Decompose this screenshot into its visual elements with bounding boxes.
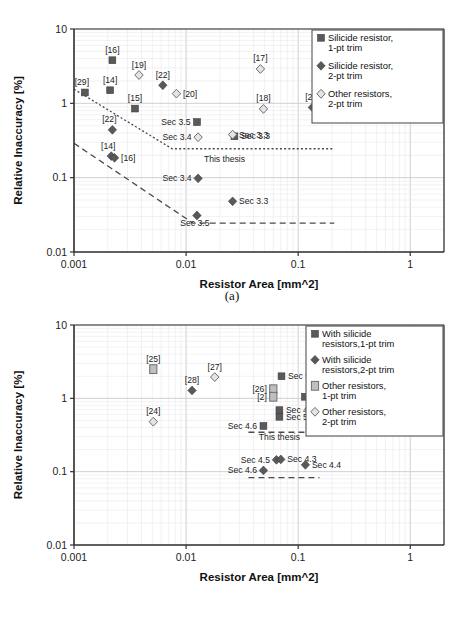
x-tick-label: 0.01	[176, 258, 197, 270]
legend-item-label: 2-pt trim	[328, 98, 363, 109]
data-point-label: Sec 3.3	[239, 196, 268, 206]
legend-item-label: 1-pt trim	[328, 42, 363, 53]
data-point-label: Sec 4.5	[241, 455, 270, 465]
data-point-label: [14]	[101, 141, 115, 151]
data-point-label: [28]	[185, 375, 199, 385]
chart-legend: With silicideresistors,1-pt trimWith sil…	[306, 326, 443, 436]
chart-legend: Silicide resistor,1-pt trimSilicide resi…	[312, 30, 443, 123]
figure-a: This thesis[29][14][16][15]Sec 3.5Sec 3.…	[0, 0, 464, 310]
data-point-label: Sec 3.5	[161, 117, 190, 127]
legend-item-label: resistors,2-pt trim	[322, 364, 395, 375]
data-point-label: Sec 3.3	[239, 130, 268, 140]
data-point-label: [19]	[132, 60, 146, 70]
data-point-marker	[107, 87, 114, 94]
legend-item-label: 2-pt trim	[328, 70, 363, 81]
annotation-this-thesis: This thesis	[259, 432, 300, 442]
data-point-marker	[109, 57, 116, 64]
x-tick-label: 0.01	[176, 551, 197, 563]
y-tick-label: 10	[55, 319, 67, 331]
annotation-this-thesis: This thesis	[204, 154, 245, 164]
y-tick-label: 1	[61, 97, 67, 109]
y-tick-label: 0.1	[52, 465, 67, 477]
data-point-label: Sec 3.5	[180, 218, 209, 228]
legend-marker-square-dark	[318, 34, 325, 41]
y-axis-title: Relative Inaccuracy [%]	[12, 371, 24, 500]
data-point-label: Sec 3.4	[162, 132, 191, 142]
x-tick-label: 0.001	[61, 551, 87, 563]
data-point-marker	[278, 373, 285, 380]
data-point-label: [14]	[103, 75, 117, 85]
figure-a-caption: (a)	[0, 288, 464, 304]
data-point-label: [27]	[208, 362, 222, 372]
data-point-label: [29]	[75, 77, 89, 87]
data-point-label: [16]	[105, 45, 119, 55]
y-tick-label: 0.01	[47, 246, 68, 258]
y-axis-title: Relative Inaccuracy [%]	[12, 76, 24, 205]
chart-a-svg: This thesis[29][14][16][15]Sec 3.5Sec 3.…	[0, 0, 464, 290]
data-point-marker	[81, 89, 88, 96]
chart-a-plot: This thesis[29][14][16][15]Sec 3.5Sec 3.…	[0, 0, 464, 310]
x-tick-label: 0.1	[291, 258, 306, 270]
data-point-label: Sec 4.6	[228, 465, 257, 475]
data-point-marker	[132, 105, 139, 112]
data-point-label: [15]	[128, 93, 142, 103]
data-point-marker	[276, 413, 283, 420]
y-tick-label: 0.01	[47, 539, 68, 551]
data-point-marker	[276, 407, 283, 414]
legend-item-label: 1-pt trim	[322, 390, 357, 401]
legend-marker-square-dark	[312, 330, 319, 337]
data-point-label: [22]	[102, 114, 116, 124]
data-point-marker	[260, 423, 267, 430]
data-point-label: [20]	[183, 89, 197, 99]
legend-marker-square-light	[311, 381, 318, 390]
data-point-label: [24]	[146, 406, 160, 416]
legend-item-label: resistors,1-pt trim	[322, 338, 395, 349]
x-axis-title: Resistor Area [mm^2]	[200, 571, 319, 583]
data-point-label: Sec 4.6	[228, 421, 257, 431]
data-point-marker	[150, 365, 157, 374]
figure-b: This thesisSec 5.2Sec 4.4Sec 4.3Sec 5.3S…	[0, 310, 464, 619]
x-tick-label: 1	[407, 551, 413, 563]
y-tick-label: 0.1	[52, 171, 67, 183]
chart-b-plot: This thesisSec 5.2Sec 4.4Sec 4.3Sec 5.3S…	[0, 310, 464, 619]
x-tick-label: 0.1	[291, 551, 306, 563]
data-point-marker	[270, 392, 277, 401]
y-tick-label: 1	[61, 392, 67, 404]
x-tick-label: 1	[407, 258, 413, 270]
x-tick-label: 0.001	[61, 258, 87, 270]
data-point-label: [22]	[156, 70, 170, 80]
data-point-label: Sec 3.4	[162, 173, 191, 183]
data-point-label: [25]	[146, 354, 160, 364]
y-tick-label: 10	[55, 23, 67, 35]
data-point-label: [18]	[256, 93, 270, 103]
chart-b-svg: This thesisSec 5.2Sec 4.4Sec 4.3Sec 5.3S…	[0, 310, 464, 595]
data-point-label: [17]	[253, 53, 267, 63]
legend-item-label: 2-pt trim	[322, 416, 357, 427]
data-point-label: [16]	[121, 153, 135, 163]
data-point-label: Sec 4.4	[312, 460, 341, 470]
data-point-label: [2]	[257, 392, 267, 402]
data-point-marker	[194, 119, 201, 126]
